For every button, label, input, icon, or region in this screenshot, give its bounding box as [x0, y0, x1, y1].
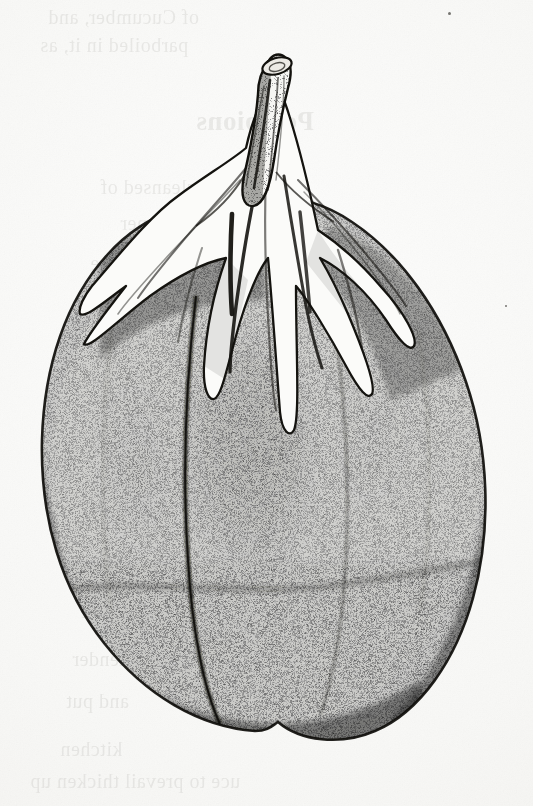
- engraving-page: of Cucumber, andparboiled in it, asPompi…: [0, 0, 533, 806]
- eggplant-illustration: [0, 0, 533, 806]
